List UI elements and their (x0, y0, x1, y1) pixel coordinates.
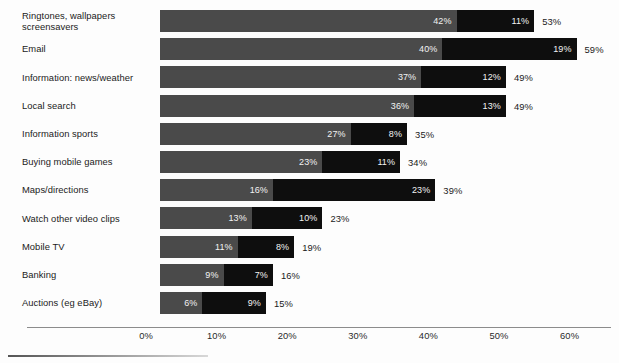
bar-segment-value: 6% (184, 298, 197, 308)
bar-segment-secondary: 9% (202, 292, 266, 314)
bar-row: 6%9%15% (160, 292, 596, 314)
x-tick-label: 60% (560, 330, 579, 341)
bar-segment-value: 37% (398, 72, 416, 82)
bar-total-label: 59% (585, 44, 604, 55)
bar-segment-secondary: 11% (457, 10, 535, 32)
bar-segment-value: 19% (553, 44, 571, 54)
x-tick-label: 40% (419, 330, 438, 341)
bar-segment-primary: 37% (160, 66, 421, 88)
x-tick-label: 30% (348, 330, 367, 341)
category-label: Mobile TV (22, 241, 160, 253)
bar-segment-primary: 36% (160, 95, 414, 117)
x-tick-label: 0% (139, 330, 153, 341)
bar-total-label: 53% (542, 16, 561, 27)
category-label: Auctions (eg eBay) (22, 297, 160, 309)
bar-segment-value: 7% (255, 270, 268, 280)
bar-segment-secondary: 19% (442, 38, 576, 60)
bar-row: 23%11%34% (160, 151, 596, 173)
bar-total-label: 23% (330, 213, 349, 224)
bar-segment-value: 13% (483, 101, 501, 111)
bar-total-label: 35% (415, 128, 434, 139)
bar-segment-value: 23% (299, 157, 317, 167)
category-label: Watch other video clips (22, 213, 160, 225)
category-label: Banking (22, 269, 160, 281)
stacked-bar-chart: Ringtones, wallpapers screensaversEmailI… (0, 0, 619, 363)
bar-segment-primary: 23% (160, 151, 322, 173)
bar-total-label: 19% (302, 241, 321, 252)
bar-total-label: 49% (514, 72, 533, 83)
category-label: Buying mobile games (22, 156, 160, 168)
bar-segment-value: 10% (299, 213, 317, 223)
bar-segment-primary: 40% (160, 38, 442, 60)
category-label: Email (22, 43, 160, 55)
category-label: Information sports (22, 128, 160, 140)
bar-segment-primary: 6% (160, 292, 202, 314)
bar-segment-secondary: 7% (224, 264, 273, 286)
bar-segment-value: 9% (205, 270, 218, 280)
bar-segment-primary: 11% (160, 236, 238, 258)
bar-segment-secondary: 8% (238, 236, 294, 258)
bar-row: 9%7%16% (160, 264, 596, 286)
category-label: Information: news/weather (22, 72, 160, 84)
bar-segment-secondary: 13% (414, 95, 506, 117)
bar-row: 40%19%59% (160, 38, 596, 60)
bar-total-label: 15% (274, 298, 293, 309)
category-label: Local search (22, 100, 160, 112)
bar-segment-value: 42% (433, 16, 451, 26)
bar-row: 27%8%35% (160, 123, 596, 145)
bar-total-label: 49% (514, 100, 533, 111)
bar-segment-primary: 13% (160, 207, 252, 229)
bar-segment-value: 12% (483, 72, 501, 82)
bar-segment-primary: 27% (160, 123, 351, 145)
x-tick-label: 50% (489, 330, 508, 341)
bar-row: 11%8%19% (160, 236, 596, 258)
bar-segment-value: 9% (248, 298, 261, 308)
bar-segment-value: 40% (419, 44, 437, 54)
x-tick-label: 20% (278, 330, 297, 341)
bar-segment-value: 13% (228, 213, 246, 223)
bar-segment-value: 11% (377, 157, 395, 167)
bar-row: 13%10%23% (160, 207, 596, 229)
category-label: Ringtones, wallpapers screensavers (22, 10, 160, 33)
bar-row: 36%13%49% (160, 95, 596, 117)
bar-segment-value: 11% (215, 242, 233, 252)
bar-segment-secondary: 23% (273, 179, 435, 201)
x-tick-label: 10% (207, 330, 226, 341)
category-axis-labels: Ringtones, wallpapers screensaversEmailI… (0, 0, 160, 327)
bar-total-label: 39% (443, 185, 462, 196)
bar-total-label: 34% (408, 157, 427, 168)
category-label: Maps/directions (22, 184, 160, 196)
bar-segment-secondary: 8% (351, 123, 407, 145)
bar-segment-value: 23% (412, 185, 430, 195)
bottom-divider (8, 355, 208, 357)
bar-segment-secondary: 11% (322, 151, 400, 173)
bar-segment-value: 8% (389, 129, 402, 139)
bar-segment-value: 27% (327, 129, 345, 139)
bar-total-label: 16% (281, 269, 300, 280)
x-axis-tick-labels: 0%10%20%30%40%50%60% (0, 330, 619, 346)
x-axis-line (27, 327, 611, 328)
bar-segment-primary: 16% (160, 179, 273, 201)
bar-segment-value: 11% (512, 16, 530, 26)
bar-segment-secondary: 12% (421, 66, 506, 88)
bar-segment-secondary: 10% (252, 207, 323, 229)
bar-row: 16%23%39% (160, 179, 596, 201)
bar-segment-value: 16% (250, 185, 268, 195)
bar-row: 37%12%49% (160, 66, 596, 88)
bar-segment-primary: 42% (160, 10, 457, 32)
bar-segment-primary: 9% (160, 264, 224, 286)
plot-area: 42%11%53%40%19%59%37%12%49%36%13%49%27%8… (160, 0, 596, 327)
bar-segment-value: 8% (276, 242, 289, 252)
bar-segment-value: 36% (391, 101, 409, 111)
bar-row: 42%11%53% (160, 10, 596, 32)
